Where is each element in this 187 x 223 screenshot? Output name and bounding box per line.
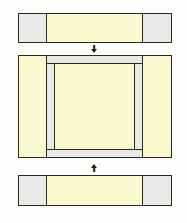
bottom-plate-outline: [18, 175, 172, 206]
diagram-canvas: [0, 0, 187, 223]
middle-frame-outline: [18, 55, 172, 158]
top-plate-outline: [18, 13, 172, 43]
